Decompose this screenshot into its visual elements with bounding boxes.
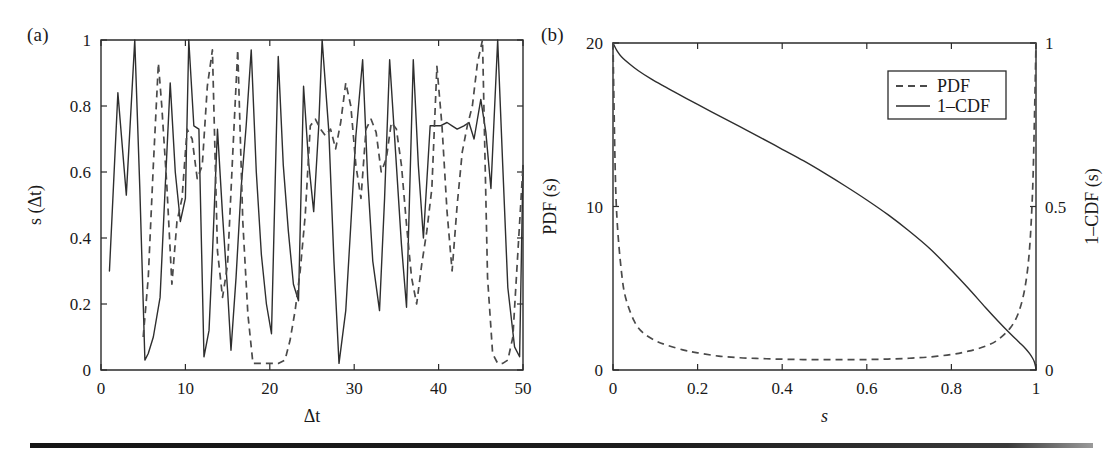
figure-container: (a) (b) 01020304050 00.20.40.60.81 Δt s … bbox=[0, 0, 1118, 454]
y-tick-label: 0.4 bbox=[70, 229, 92, 248]
y-tick-label-right: 0 bbox=[1045, 361, 1054, 380]
panel-b-x-axis-label: s bbox=[821, 406, 828, 426]
x-tick-label: 10 bbox=[177, 379, 194, 398]
panel-a-y-tick-labels: 00.20.40.60.81 bbox=[70, 31, 92, 380]
figure-svg: 01020304050 00.20.40.60.81 Δt s (Δt) 00.… bbox=[0, 0, 1118, 454]
bottom-divider-rule bbox=[30, 443, 1093, 448]
legend-label-pdf: PDF bbox=[937, 76, 970, 96]
x-tick-label: 0 bbox=[97, 379, 106, 398]
panel-b-legend: PDF 1–CDF bbox=[888, 71, 1006, 119]
y-tick-label-left: 10 bbox=[586, 198, 603, 217]
x-tick-label: 0.2 bbox=[687, 379, 708, 398]
x-tick-label: 40 bbox=[430, 379, 447, 398]
y-tick-label: 0 bbox=[83, 361, 92, 380]
x-tick-label: 1 bbox=[1032, 379, 1041, 398]
panel-a-x-tick-labels: 01020304050 bbox=[97, 379, 532, 398]
x-tick-label: 0.4 bbox=[772, 379, 794, 398]
y-tick-label-right: 1 bbox=[1045, 34, 1054, 53]
y-tick-label: 1 bbox=[83, 31, 92, 50]
panel-b-x-tick-labels: 00.20.40.60.81 bbox=[609, 379, 1041, 398]
panel-a-solid-curve bbox=[109, 40, 523, 363]
y-tick-label-right: 0.5 bbox=[1045, 198, 1066, 217]
x-tick-label: 50 bbox=[515, 379, 532, 398]
panel-a-plot: 01020304050 00.20.40.60.81 Δt s (Δt) bbox=[25, 31, 532, 426]
panel-b-y-axis-label-right: 1–CDF (s) bbox=[1082, 168, 1103, 245]
panel-a-y-axis-label: s (Δt) bbox=[25, 185, 46, 225]
x-tick-label: 30 bbox=[346, 379, 363, 398]
panel-b-y-tick-labels-left: 01020 bbox=[586, 34, 603, 380]
y-tick-label-left: 20 bbox=[586, 34, 603, 53]
panel-b-y-tick-labels-right: 00.51 bbox=[1045, 34, 1066, 380]
x-tick-label: 0 bbox=[609, 379, 618, 398]
x-tick-label: 20 bbox=[261, 379, 278, 398]
y-tick-label: 0.2 bbox=[70, 295, 91, 314]
panel-b-plot: 00.20.40.60.81 01020 00.51 s PDF (s) 1–C… bbox=[540, 34, 1103, 426]
panel-a-x-axis-label: Δt bbox=[304, 406, 321, 426]
legend-label-one-minus-cdf: 1–CDF bbox=[937, 96, 990, 116]
y-tick-label: 0.6 bbox=[70, 163, 91, 182]
x-tick-label: 0.6 bbox=[856, 379, 877, 398]
y-tick-label: 0.8 bbox=[70, 97, 91, 116]
x-tick-label: 0.8 bbox=[941, 379, 962, 398]
panel-b-y-axis-label-left: PDF (s) bbox=[540, 178, 561, 235]
y-tick-label-left: 0 bbox=[595, 361, 604, 380]
